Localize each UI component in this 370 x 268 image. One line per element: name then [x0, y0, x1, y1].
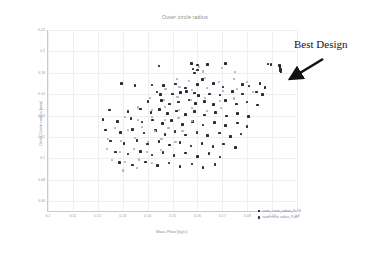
- x-axis-tick-label: 0.16: [194, 214, 201, 218]
- scatter-point: [185, 90, 188, 93]
- scatter-point: [164, 106, 166, 108]
- scatter-point: [151, 84, 154, 87]
- scatter-point: [118, 161, 121, 164]
- scatter-point: [179, 91, 182, 94]
- scatter-point: [240, 133, 243, 136]
- scatter-point: [203, 100, 206, 103]
- scatter-point: [168, 103, 171, 106]
- scatter-point: [206, 110, 208, 112]
- scatter-point: [206, 134, 209, 137]
- x-axis-tick-label: 0.18: [244, 214, 251, 218]
- scatter-point: [161, 122, 164, 125]
- scatter-point: [248, 85, 251, 88]
- scatter-point: [190, 62, 193, 65]
- scatter-point: [255, 91, 258, 94]
- scatter-point: [218, 132, 221, 135]
- scatter-point: [177, 117, 179, 119]
- scatter-point: [119, 151, 121, 153]
- scatter-point: [252, 91, 254, 93]
- gridline-vertical: [222, 30, 223, 211]
- scatter-point: [193, 92, 196, 95]
- scatter-point: [178, 109, 180, 111]
- scatter-point: [108, 109, 111, 112]
- scatter-point: [188, 80, 190, 82]
- scatter-point: [201, 142, 204, 145]
- scatter-point: [184, 152, 187, 155]
- legend-swatch-icon: [258, 216, 260, 218]
- scatter-point: [162, 84, 165, 87]
- scatter-point: [206, 63, 209, 66]
- scatter-point: [168, 144, 171, 147]
- y-axis-tick-label: 0.06: [38, 199, 45, 203]
- scatter-point: [236, 88, 238, 90]
- scatter-point: [164, 88, 166, 90]
- scatter-point: [261, 93, 264, 96]
- scatter-point: [134, 84, 137, 87]
- scatter-point: [191, 163, 194, 166]
- scatter-point: [222, 143, 225, 146]
- scatter-point: [170, 119, 173, 122]
- scatter-point: [167, 127, 169, 129]
- gridline-vertical: [148, 30, 149, 211]
- scatter-point: [196, 83, 199, 86]
- scatter-point: [127, 153, 130, 156]
- x-axis-tick-label: 0.15: [169, 214, 176, 218]
- gridline-vertical: [98, 30, 99, 211]
- scatter-point: [174, 130, 177, 133]
- gridline-vertical: [197, 30, 198, 211]
- scatter-point: [107, 138, 109, 140]
- scatter-point: [196, 69, 199, 72]
- x-axis-tick-label: 0.12: [94, 214, 101, 218]
- scatter-point: [173, 154, 176, 157]
- scatter-point: [202, 70, 204, 72]
- scatter-point: [191, 89, 193, 91]
- scatter-point: [147, 141, 149, 143]
- scatter-point: [208, 152, 211, 155]
- scatter-point: [164, 119, 166, 121]
- scatter-point: [198, 66, 200, 68]
- scatter-point: [176, 78, 178, 80]
- scatter-point: [202, 124, 205, 127]
- scatter-point: [213, 121, 216, 124]
- plot-area: 0.220.20.180.160.140.120.10.080.060.10.1…: [47, 30, 296, 212]
- scatter-point: [206, 87, 208, 89]
- scatter-point: [184, 134, 187, 137]
- scatter-point: [149, 97, 151, 99]
- scatter-point: [235, 103, 238, 106]
- scatter-point: [212, 103, 215, 106]
- scatter-point: [194, 102, 197, 105]
- scatter-point: [214, 111, 217, 114]
- scatter-point: [218, 81, 220, 83]
- scatter-point: [174, 141, 176, 143]
- scatter-point: [219, 94, 222, 97]
- scatter-point: [106, 148, 108, 150]
- legend-label: outer circle radius_P=47: [262, 214, 299, 220]
- scatter-point: [136, 167, 138, 169]
- x-axis-title: Mass Flow [kg/s]: [47, 229, 296, 234]
- gridline-vertical: [272, 30, 273, 211]
- best-design-arrow-icon: [280, 57, 326, 87]
- scatter-point: [231, 90, 234, 93]
- scatter-point: [181, 123, 184, 126]
- scatter-point: [184, 87, 187, 90]
- scatter-point: [124, 161, 126, 163]
- scatter-point: [190, 145, 193, 148]
- scatter-point: [174, 83, 177, 86]
- scatter-point: [193, 72, 196, 75]
- scatter-point: [123, 142, 126, 145]
- scatter-chart: Outer circle radius 0.220.20.180.160.140…: [0, 0, 370, 268]
- legend-item[interactable]: outer circle radius_P=47: [258, 214, 301, 220]
- scatter-point: [136, 139, 139, 142]
- scatter-point: [127, 129, 129, 131]
- scatter-point: [159, 93, 162, 96]
- scatter-point: [144, 161, 147, 164]
- scatter-point: [184, 113, 187, 116]
- scatter-point: [131, 164, 134, 167]
- scatter-point: [116, 120, 119, 123]
- scatter-point: [137, 119, 139, 121]
- scatter-point: [212, 145, 215, 148]
- x-axis-tick-label: 0.1: [46, 214, 51, 218]
- scatter-point: [151, 162, 153, 164]
- scatter-point: [158, 140, 161, 143]
- scatter-point: [224, 124, 227, 127]
